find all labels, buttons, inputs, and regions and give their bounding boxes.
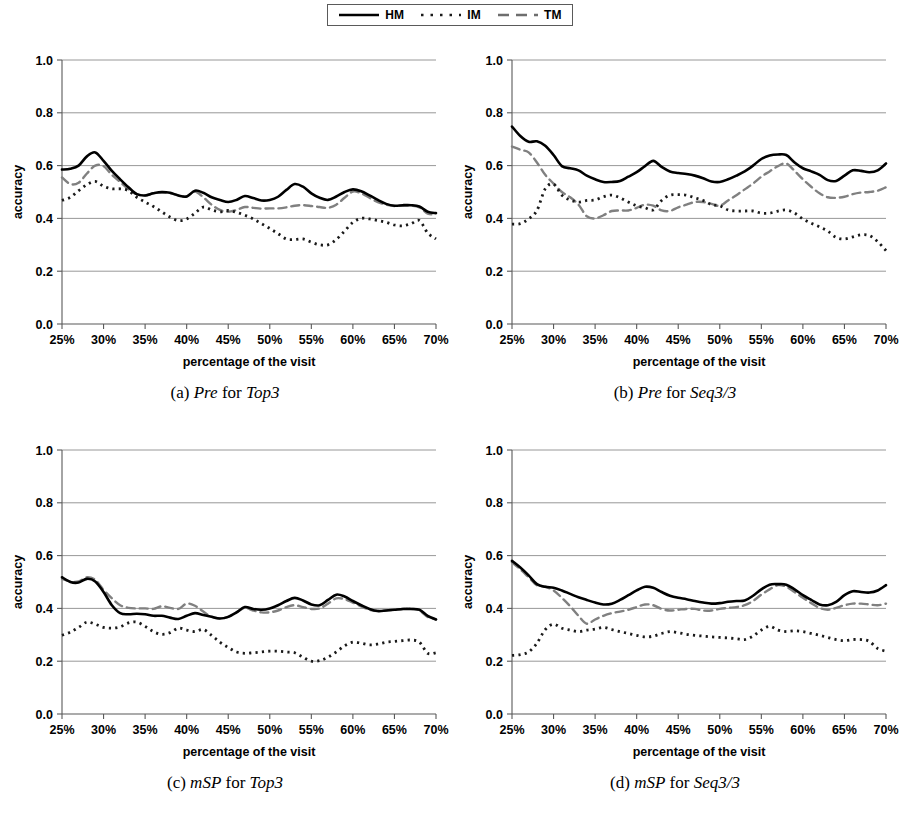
y-tick-label: 1.0	[486, 54, 503, 68]
legend-line-dotted-icon	[420, 9, 462, 21]
y-tick-label: 0.8	[486, 106, 503, 120]
x-tick-label: 65%	[382, 723, 407, 737]
plot-a: 0.00.20.40.60.81.025%30%35%40%45%50%55%6…	[0, 38, 450, 387]
caption-b: (b) Pre for Seq3/3	[450, 383, 900, 403]
x-tick-label: 35%	[583, 333, 608, 347]
panel-d: 0.00.20.40.60.81.025%30%35%40%45%50%55%6…	[450, 428, 900, 818]
y-axis: 0.00.20.40.60.81.0	[486, 54, 512, 332]
x-tick-label: 45%	[216, 723, 241, 737]
legend-entry-im: IM	[420, 8, 481, 22]
x-axis: 25%30%35%40%45%50%55%60%65%70%	[499, 714, 898, 737]
caption-b-dataset: Seq3/3	[690, 383, 736, 402]
caption-d-metric: mSP	[634, 773, 665, 792]
series-line-hm	[512, 561, 886, 606]
x-tick-label: 55%	[749, 723, 774, 737]
x-axis: 25%30%35%40%45%50%55%60%65%70%	[49, 714, 448, 737]
caption-d-joiner: for	[670, 773, 690, 792]
x-tick-label: 70%	[873, 333, 898, 347]
x-axis-title: percentage of the visit	[633, 745, 767, 759]
y-tick-label: 0.8	[36, 106, 53, 120]
series-line-tm	[512, 147, 886, 219]
y-tick-label: 0.4	[486, 212, 503, 226]
x-tick-label: 50%	[707, 723, 732, 737]
y-tick-label: 0.0	[36, 708, 53, 722]
y-tick-label: 0.2	[486, 655, 503, 669]
x-tick-label: 55%	[749, 333, 774, 347]
x-axis: 25%30%35%40%45%50%55%60%65%70%	[49, 324, 448, 347]
caption-c-joiner: for	[226, 773, 246, 792]
y-tick-label: 1.0	[36, 54, 53, 68]
series-line-tm	[62, 165, 436, 215]
y-tick-label: 0.8	[36, 496, 53, 510]
chart-b: 0.00.20.40.60.81.025%30%35%40%45%50%55%6…	[450, 38, 900, 383]
x-tick-label: 65%	[832, 333, 857, 347]
y-axis-title: accuracy	[11, 555, 25, 609]
x-tick-label: 55%	[299, 333, 324, 347]
figure-root: HM IM TM 0.00.20.40.60.81.025%30%35%40%4…	[0, 0, 900, 836]
plot-d: 0.00.20.40.60.81.025%30%35%40%45%50%55%6…	[450, 428, 900, 777]
x-tick-label: 40%	[174, 333, 199, 347]
x-tick-label: 35%	[133, 333, 158, 347]
x-tick-label: 70%	[423, 723, 448, 737]
caption-c-metric: mSP	[190, 773, 221, 792]
x-tick-label: 50%	[707, 333, 732, 347]
y-tick-label: 0.6	[36, 159, 53, 173]
x-tick-label: 25%	[49, 723, 74, 737]
y-axis-title: accuracy	[461, 165, 475, 219]
x-tick-label: 70%	[873, 723, 898, 737]
caption-a-dataset: Top3	[246, 383, 279, 402]
y-axis-title: accuracy	[11, 165, 25, 219]
x-tick-label: 60%	[340, 333, 365, 347]
y-tick-label: 0.0	[486, 318, 503, 332]
x-tick-label: 30%	[541, 333, 566, 347]
caption-a: (a) Pre for Top3	[0, 383, 450, 403]
caption-a-index: (a)	[171, 383, 190, 402]
x-tick-label: 30%	[91, 333, 116, 347]
y-axis: 0.00.20.40.60.81.0	[36, 444, 62, 722]
y-tick-label: 0.2	[486, 265, 503, 279]
legend-line-dashed-icon	[497, 9, 539, 21]
caption-b-metric: Pre	[638, 383, 662, 402]
caption-d: (d) mSP for Seq3/3	[450, 773, 900, 793]
y-tick-label: 0.0	[36, 318, 53, 332]
y-tick-label: 0.2	[36, 655, 53, 669]
caption-a-joiner: for	[222, 383, 242, 402]
x-tick-label: 55%	[299, 723, 324, 737]
series-line-im	[512, 624, 886, 655]
legend-line-solid-icon	[338, 9, 380, 21]
series-line-hm	[62, 577, 436, 619]
panel-b: 0.00.20.40.60.81.025%30%35%40%45%50%55%6…	[450, 38, 900, 428]
x-tick-label: 45%	[666, 723, 691, 737]
x-tick-label: 65%	[832, 723, 857, 737]
chart-d: 0.00.20.40.60.81.025%30%35%40%45%50%55%6…	[450, 428, 900, 773]
x-axis-title: percentage of the visit	[183, 745, 317, 759]
x-axis-title: percentage of the visit	[183, 355, 317, 369]
x-axis-title: percentage of the visit	[633, 355, 767, 369]
chart-a: 0.00.20.40.60.81.025%30%35%40%45%50%55%6…	[0, 38, 450, 383]
y-tick-label: 0.0	[486, 708, 503, 722]
x-tick-label: 50%	[257, 723, 282, 737]
x-tick-label: 70%	[423, 333, 448, 347]
x-tick-label: 60%	[340, 723, 365, 737]
x-tick-label: 45%	[666, 333, 691, 347]
x-tick-label: 30%	[541, 723, 566, 737]
legend-label-hm: HM	[385, 8, 404, 22]
plot-b: 0.00.20.40.60.81.025%30%35%40%45%50%55%6…	[450, 38, 900, 387]
y-tick-label: 1.0	[36, 444, 53, 458]
y-tick-label: 0.6	[486, 549, 503, 563]
panel-a: 0.00.20.40.60.81.025%30%35%40%45%50%55%6…	[0, 38, 450, 428]
legend-box: HM IM TM	[327, 4, 573, 26]
y-tick-label: 0.8	[486, 496, 503, 510]
legend-label-im: IM	[467, 8, 481, 22]
x-tick-label: 50%	[257, 333, 282, 347]
x-tick-label: 60%	[790, 333, 815, 347]
series-line-im	[512, 184, 886, 251]
gridlines	[62, 450, 436, 661]
x-tick-label: 25%	[499, 333, 524, 347]
y-tick-label: 1.0	[486, 444, 503, 458]
y-axis: 0.00.20.40.60.81.0	[36, 54, 62, 332]
legend-container: HM IM TM	[0, 4, 900, 26]
caption-a-metric: Pre	[194, 383, 218, 402]
chart-c: 0.00.20.40.60.81.025%30%35%40%45%50%55%6…	[0, 428, 450, 773]
x-tick-label: 25%	[49, 333, 74, 347]
